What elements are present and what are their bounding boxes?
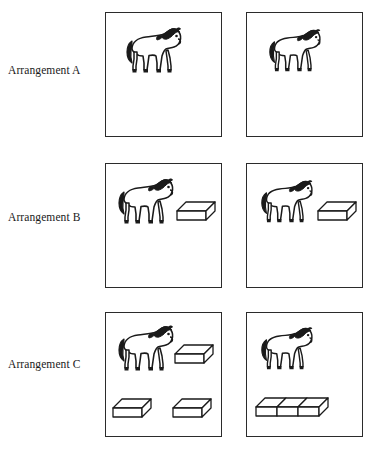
horse-figure	[259, 178, 317, 230]
block-figure	[172, 397, 212, 423]
row-label-arrangement-c: Arrangement C	[8, 358, 100, 370]
horse-figure	[124, 27, 186, 79]
panel-a-left[interactable]	[105, 12, 222, 137]
row-label-arrangement-a: Arrangement A	[8, 64, 100, 76]
panel-c-left[interactable]	[105, 312, 222, 437]
block-figure	[176, 200, 216, 226]
horse-figure	[267, 27, 325, 79]
block-figure	[317, 200, 357, 226]
block-figure	[174, 343, 214, 369]
arrangement-figure: Arrangement A	[0, 0, 375, 450]
panel-c-right[interactable]	[246, 312, 363, 437]
figure-row-c: Arrangement C	[0, 312, 375, 437]
panel-b-left[interactable]	[105, 163, 222, 288]
horse-figure	[116, 178, 178, 230]
figure-row-b: Arrangement B	[0, 163, 375, 288]
joined-block-row-figure	[255, 395, 347, 423]
block-figure	[112, 397, 152, 423]
horse-figure	[116, 325, 178, 377]
panel-b-right[interactable]	[246, 163, 363, 288]
panel-a-right[interactable]	[246, 12, 363, 137]
row-label-arrangement-b: Arrangement B	[8, 211, 100, 223]
horse-figure	[259, 325, 317, 377]
figure-row-a: Arrangement A	[0, 12, 375, 137]
